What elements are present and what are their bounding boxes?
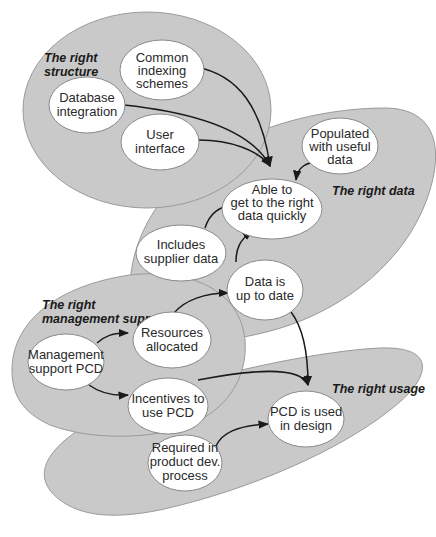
group-label-usage: The right usage bbox=[332, 382, 425, 396]
svg-text:use PCD: use PCD bbox=[142, 405, 194, 420]
svg-text:interface: interface bbox=[135, 141, 185, 156]
group-label-management-line1: The right bbox=[42, 298, 96, 312]
svg-text:PCD is used: PCD is used bbox=[270, 404, 342, 419]
svg-text:allocated: allocated bbox=[146, 339, 198, 354]
group-label-data: The right data bbox=[332, 184, 415, 198]
svg-text:process: process bbox=[162, 468, 208, 483]
node-common-indexing: Common indexing schemes bbox=[120, 40, 204, 100]
node-populated-with-useful-data: Populated with useful data bbox=[302, 118, 378, 174]
svg-text:User: User bbox=[146, 127, 174, 142]
diagram-canvas: The right structure The right data The r… bbox=[0, 0, 436, 537]
node-incentives-to-use-pcd: Incentives to use PCD bbox=[128, 378, 208, 434]
node-required-in-product-dev-process: Required in product dev. process bbox=[148, 435, 222, 491]
svg-text:Database: Database bbox=[59, 90, 115, 105]
svg-text:Data is: Data is bbox=[245, 274, 286, 289]
svg-text:in design: in design bbox=[280, 418, 332, 433]
svg-text:Management: Management bbox=[28, 347, 104, 362]
group-label-structure-line1: The right bbox=[44, 51, 98, 65]
svg-text:integration: integration bbox=[57, 104, 118, 119]
node-resources-allocated: Resources allocated bbox=[133, 312, 211, 368]
node-pcd-used-in-design: PCD is used in design bbox=[268, 391, 344, 447]
svg-text:Resources: Resources bbox=[141, 325, 204, 340]
node-data-up-to-date: Data is up to date bbox=[227, 260, 303, 320]
svg-text:supplier data: supplier data bbox=[144, 251, 219, 266]
svg-text:up to date: up to date bbox=[236, 288, 294, 303]
svg-text:product dev.: product dev. bbox=[150, 454, 221, 469]
svg-text:Required in: Required in bbox=[152, 440, 219, 455]
svg-text:Includes: Includes bbox=[157, 237, 206, 252]
node-management-support-pcd: Management support PCD bbox=[28, 334, 104, 390]
svg-text:Incentives to: Incentives to bbox=[132, 391, 205, 406]
svg-text:data: data bbox=[327, 152, 353, 167]
node-includes-supplier-data: Includes supplier data bbox=[136, 225, 226, 281]
node-database-integration: Database integration bbox=[49, 77, 125, 133]
svg-text:support PCD: support PCD bbox=[29, 361, 103, 376]
node-able-to-get-right-data: Able to get to the right data quickly bbox=[222, 179, 322, 239]
svg-text:schemes: schemes bbox=[136, 76, 189, 91]
svg-text:data quickly: data quickly bbox=[238, 208, 307, 223]
node-user-interface: User interface bbox=[121, 114, 199, 170]
